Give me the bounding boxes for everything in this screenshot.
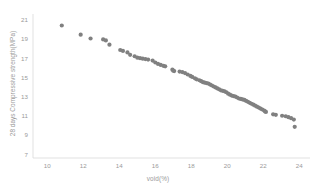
axis-lines <box>33 14 310 158</box>
y-tick-label: 9 <box>14 131 28 138</box>
y-axis-title: 28 days Compressive strength(MPa) <box>9 14 16 154</box>
data-point <box>104 38 108 42</box>
y-tick-label: 11 <box>14 112 28 119</box>
y-tick-label: 15 <box>14 74 28 81</box>
y-tick-label: 13 <box>14 93 28 100</box>
x-tick-label: 14 <box>111 162 127 169</box>
x-axis-title: void(%) <box>0 175 316 182</box>
data-point <box>79 33 83 37</box>
data-point <box>274 113 278 117</box>
data-point <box>280 114 284 118</box>
y-tick-label: 19 <box>14 35 28 42</box>
data-point <box>293 125 297 129</box>
data-point <box>60 23 64 27</box>
data-point <box>172 69 176 73</box>
x-tick-label: 18 <box>183 162 199 169</box>
y-tick-label: 17 <box>14 55 28 62</box>
data-point <box>292 118 296 122</box>
x-tick-label: 24 <box>291 162 307 169</box>
data-point-group <box>60 23 297 128</box>
data-point <box>163 64 167 68</box>
x-tick-label: 10 <box>39 162 55 169</box>
data-point <box>128 53 132 57</box>
x-tick-label: 22 <box>255 162 271 169</box>
data-point <box>88 36 92 40</box>
data-point <box>121 49 125 53</box>
x-tick-label: 12 <box>75 162 91 169</box>
data-point <box>146 58 150 62</box>
x-tick-label: 16 <box>147 162 163 169</box>
scatter-chart: 79111315171921 1012141618202224 void(%) … <box>0 0 316 192</box>
y-tick-label: 21 <box>14 16 28 23</box>
data-point <box>264 110 268 114</box>
data-point <box>107 43 111 47</box>
x-tick-label: 20 <box>219 162 235 169</box>
y-tick-label: 7 <box>14 151 28 158</box>
